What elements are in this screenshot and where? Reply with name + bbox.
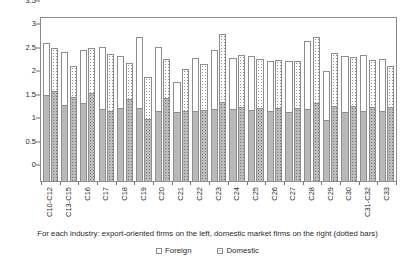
- bar-segment-foreign: [388, 107, 393, 181]
- x-axis-tick-mark: [41, 182, 42, 185]
- bar-segment-foreign: [249, 110, 254, 181]
- bar-segment-foreign: [295, 108, 300, 181]
- bar-segment-domestic: [388, 67, 393, 109]
- bar-domestic-market: [256, 59, 263, 182]
- bar-group: [116, 18, 135, 182]
- y-axis-tick-label: 0.5: [26, 138, 36, 146]
- x-axis-tick-label: C16: [84, 187, 92, 201]
- x-axis-tick-mark: [97, 182, 98, 185]
- bar-segment-domestic: [257, 60, 262, 110]
- bar-segment-domestic: [81, 51, 86, 105]
- bar-segment-domestic: [332, 54, 337, 108]
- bar-segment-foreign: [361, 111, 366, 181]
- x-axis-tick-mark: [396, 182, 397, 185]
- y-axis-tick-mark: [36, 165, 40, 166]
- y-axis-tick-label: 1.5: [26, 91, 36, 99]
- bar-export-oriented: [80, 50, 87, 182]
- bar-segment-foreign: [108, 111, 113, 181]
- y-axis-tick-label: 3.5: [26, 0, 36, 5]
- x-axis-tick-label: C19: [140, 187, 148, 201]
- legend-label-foreign: Foreign: [165, 246, 191, 255]
- bar-segment-foreign: [220, 102, 225, 181]
- bar-group: [284, 18, 303, 182]
- bar-segment-domestic: [71, 67, 76, 99]
- x-axis-tick-label: C26: [271, 187, 279, 201]
- x-axis-tick-label: C27: [289, 187, 297, 201]
- bar-segment-domestic: [295, 62, 300, 110]
- x-axis-tick-mark: [247, 182, 248, 185]
- bar-group: [78, 18, 97, 182]
- y-axis-tick-mark: [36, 141, 40, 142]
- y-axis-tick-mark: [36, 71, 40, 72]
- bar-segment-domestic: [380, 60, 385, 112]
- bar-segment-foreign: [89, 93, 94, 181]
- bar-domestic-market: [126, 63, 133, 182]
- bar-segment-foreign: [201, 110, 206, 181]
- bar-segment-domestic: [370, 61, 375, 109]
- bar-segment-foreign: [174, 112, 179, 181]
- bar-segment-domestic: [276, 61, 281, 110]
- bar-group: [340, 18, 359, 182]
- x-axis-tick-mark: [78, 182, 79, 185]
- bar-export-oriented: [248, 56, 255, 182]
- x-axis-tick-label: C30: [345, 187, 353, 201]
- bar-export-oriented: [61, 52, 68, 182]
- bar-domestic-market: [51, 48, 58, 182]
- bar-domestic-market: [238, 55, 245, 182]
- bar-export-oriented: [323, 71, 330, 182]
- chart-caption: For each industry: export-oriented firms…: [0, 229, 415, 238]
- x-axis-tick-mark: [116, 182, 117, 185]
- bar-segment-foreign: [332, 106, 337, 181]
- x-axis: C10-C12C13-C15C16C17C18C19C20C21C22C23C2…: [41, 182, 396, 228]
- bar-segment-foreign: [324, 120, 329, 181]
- bar-segment-domestic: [174, 83, 179, 114]
- y-axis-tick-mark: [36, 1, 40, 2]
- bar-group: [172, 18, 191, 182]
- bar-domestic-market: [219, 34, 226, 182]
- x-axis-tick-mark: [303, 182, 304, 185]
- x-axis-tick-label: C10-C12: [46, 187, 54, 217]
- y-axis-tick-mark: [36, 24, 40, 25]
- bar-domestic-market: [163, 59, 170, 182]
- bar-segment-foreign: [100, 109, 105, 181]
- x-axis-tick-mark: [321, 182, 322, 185]
- bar-export-oriented: [304, 41, 311, 182]
- bar-segment-foreign: [156, 111, 161, 181]
- bar-export-oriented: [136, 37, 143, 182]
- x-axis-tick-label: C22: [196, 187, 204, 201]
- bar-segment-foreign: [380, 111, 385, 181]
- bar-group: [134, 18, 153, 182]
- bar-segment-domestic: [286, 62, 291, 114]
- chart-figure: 00.511.522.533.5 C10-C12C13-C15C16C17C18…: [0, 0, 415, 269]
- bar-export-oriented: [360, 55, 367, 182]
- bar-export-oriented: [267, 61, 274, 182]
- bar-segment-domestic: [89, 49, 94, 94]
- bar-export-oriented: [285, 61, 292, 182]
- x-axis-tick-mark: [134, 182, 135, 185]
- x-axis-tick-mark: [153, 182, 154, 185]
- bar-group: [303, 18, 322, 182]
- bar-segment-foreign: [164, 98, 169, 181]
- y-axis-tick-mark: [36, 118, 40, 119]
- bar-domestic-market: [350, 57, 357, 182]
- bar-group: [247, 18, 266, 182]
- bar-segment-foreign: [183, 111, 188, 181]
- bar-group: [265, 18, 284, 182]
- bar-export-oriented: [229, 58, 236, 182]
- bar-segment-foreign: [314, 103, 319, 181]
- bar-domestic-market: [387, 66, 394, 182]
- bar-domestic-market: [182, 69, 189, 182]
- bar-segment-domestic: [201, 65, 206, 112]
- bar-segment-foreign: [44, 95, 49, 181]
- bar-segment-domestic: [342, 57, 347, 114]
- bar-group: [153, 18, 172, 182]
- x-axis-tick-label: C31-C32: [364, 187, 372, 217]
- x-axis-tick-label: C25: [252, 187, 260, 201]
- x-axis-tick-label: C20: [158, 187, 166, 201]
- bar-export-oriented: [192, 58, 199, 182]
- bar-segment-domestic: [305, 42, 310, 111]
- bar-segment-domestic: [324, 72, 329, 122]
- x-axis-tick-mark: [209, 182, 210, 185]
- bar-segment-foreign: [62, 105, 67, 181]
- dotted-square-icon: [217, 248, 223, 254]
